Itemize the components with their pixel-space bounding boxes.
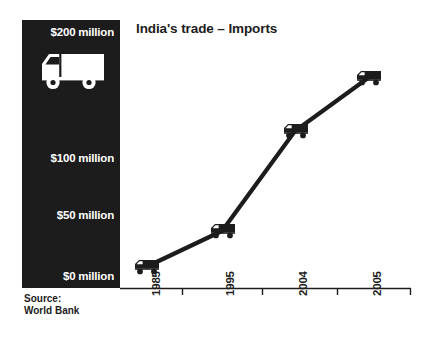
data-point-marker-2005 — [357, 71, 381, 85]
data-line-imports — [146, 78, 368, 267]
chart-canvas — [0, 0, 435, 341]
x-axis-tick-label-2004: 2004 — [297, 271, 309, 296]
plot-area: 1985 1995 2004 2005 — [0, 0, 435, 341]
x-axis-tick-label-2005: 2005 — [371, 271, 383, 296]
data-point-marker-1995 — [211, 224, 235, 238]
data-point-marker-2004 — [284, 124, 308, 138]
chart-figure: $200 million $100 million $50 million $0… — [0, 0, 435, 341]
x-axis-tick-label-1985: 1985 — [150, 271, 162, 296]
x-axis-tick-label-1995: 1995 — [224, 271, 236, 296]
